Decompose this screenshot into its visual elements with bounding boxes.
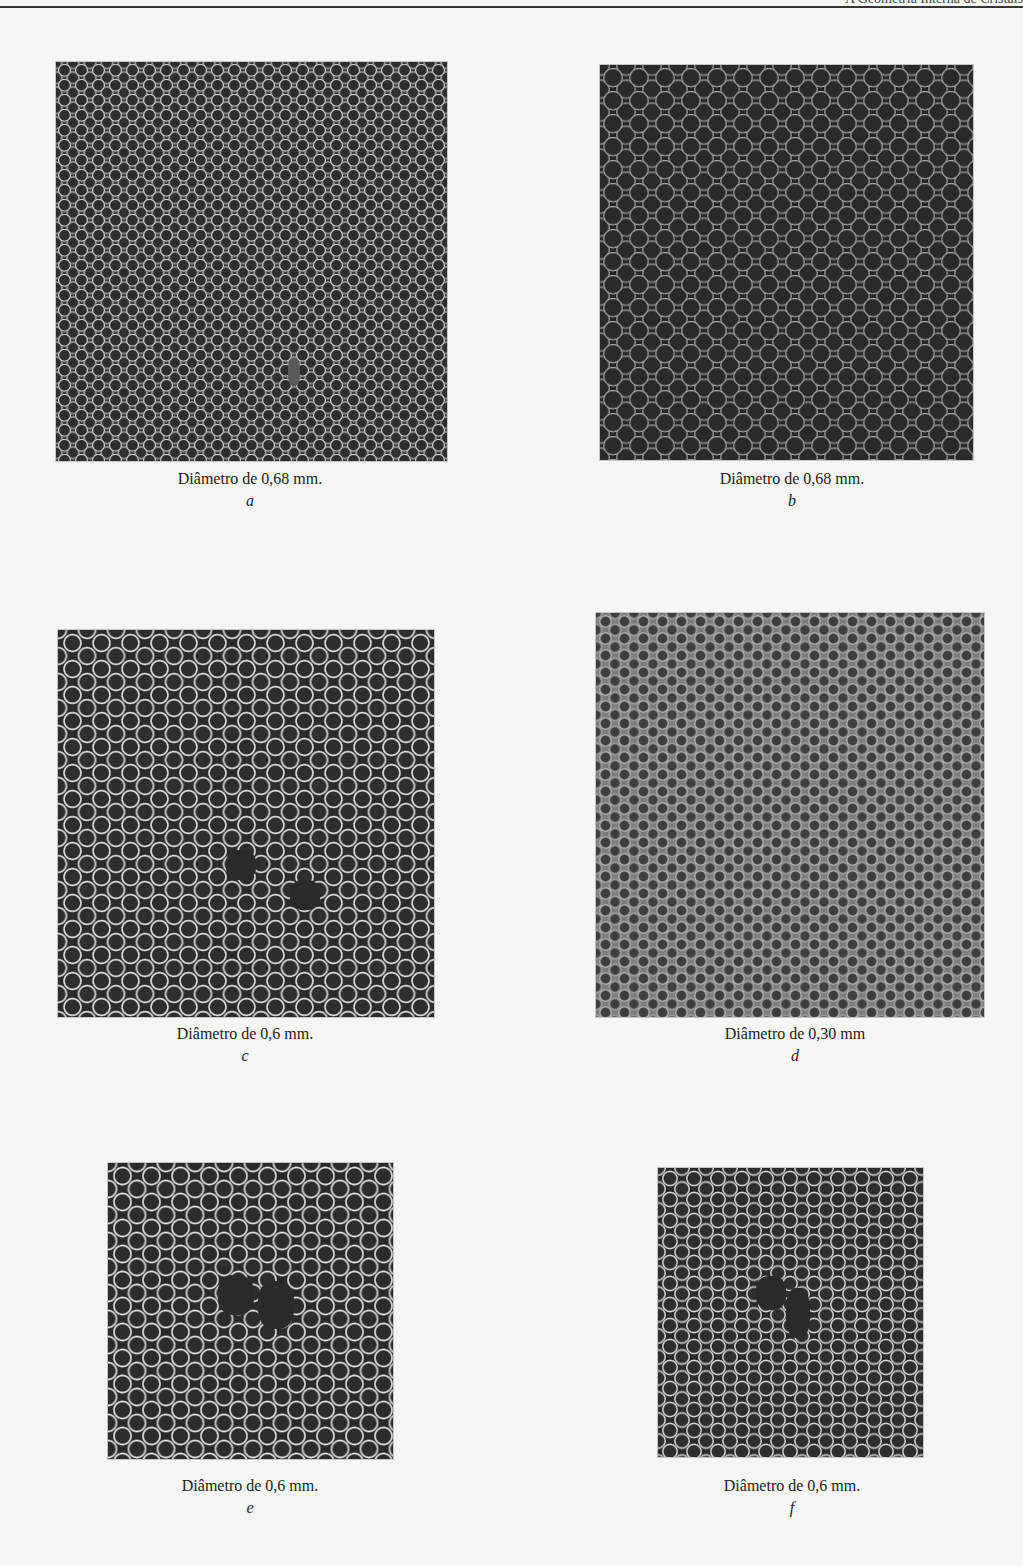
figure-b-image bbox=[600, 65, 973, 460]
vacancy-defect bbox=[258, 1281, 294, 1329]
figure-a-caption: Diâmetro de 0,68 mm. a bbox=[140, 468, 360, 512]
figure-f-caption: Diâmetro de 0,6 mm. f bbox=[682, 1475, 902, 1519]
defect-mark bbox=[288, 358, 300, 386]
vacancy-defect bbox=[226, 850, 256, 880]
figure-e-image bbox=[108, 1163, 393, 1459]
header-rule bbox=[0, 6, 1023, 8]
figure-b-caption: Diâmetro de 0,68 mm. b bbox=[682, 468, 902, 512]
figure-a-image bbox=[56, 62, 447, 461]
figure-d-image bbox=[596, 613, 984, 1017]
caption-text: Diâmetro de 0,6 mm. bbox=[724, 1477, 860, 1494]
caption-text: Diâmetro de 0,30 mm bbox=[725, 1025, 865, 1042]
caption-letter: c bbox=[135, 1045, 355, 1067]
caption-text: Diâmetro de 0,68 mm. bbox=[720, 470, 864, 487]
vacancy-defect bbox=[290, 880, 320, 910]
dislocation-defect bbox=[786, 1288, 810, 1338]
caption-letter: a bbox=[140, 490, 360, 512]
caption-text: Diâmetro de 0,68 mm. bbox=[178, 470, 322, 487]
caption-letter: d bbox=[685, 1045, 905, 1067]
figure-c-image bbox=[58, 630, 434, 1017]
figure-c-caption: Diâmetro de 0,6 mm. c bbox=[135, 1023, 355, 1067]
figure-d-caption: Diâmetro de 0,30 mm d bbox=[685, 1023, 905, 1067]
dislocation-defect bbox=[756, 1276, 786, 1310]
caption-text: Diâmetro de 0,6 mm. bbox=[182, 1477, 318, 1494]
caption-letter: f bbox=[682, 1497, 902, 1519]
caption-text: Diâmetro de 0,6 mm. bbox=[177, 1025, 313, 1042]
caption-letter: b bbox=[682, 490, 902, 512]
caption-letter: e bbox=[140, 1497, 360, 1519]
figure-e-caption: Diâmetro de 0,6 mm. e bbox=[140, 1475, 360, 1519]
figure-f-image bbox=[658, 1168, 923, 1457]
vacancy-defect bbox=[218, 1275, 254, 1315]
